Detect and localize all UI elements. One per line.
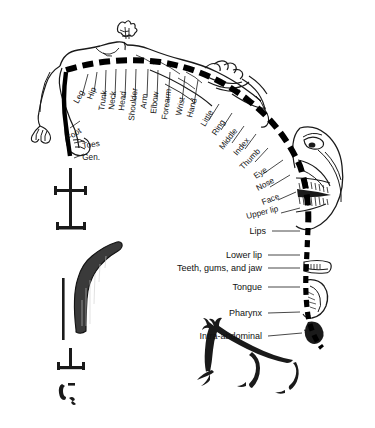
label-hip: Hip	[85, 86, 98, 101]
label-toes: Toes	[82, 139, 100, 150]
leader-line-intra-abdominal	[268, 333, 302, 336]
label-hand: Hand	[185, 97, 199, 119]
horizontal-label-group: LipsLower lipTeeth, gums, and jawTongueP…	[177, 226, 302, 341]
left-inset-figures	[54, 168, 122, 405]
label-lips: Lips	[249, 226, 266, 236]
label-gen: Gen.	[82, 153, 100, 162]
label-pharynx: Pharynx	[229, 308, 263, 318]
label-teeth-gums-and-jaw: Teeth, gums, and jaw	[177, 263, 263, 273]
leader-line-face	[278, 192, 296, 200]
label-leg: Leg	[72, 88, 87, 105]
homunculus-diagram: LegHipTrunkNeckHeadShoulderArmElbowForea…	[0, 0, 375, 428]
label-little: Little	[199, 108, 216, 128]
label-upper-lip: Upper lip	[245, 204, 279, 221]
intra-abdominal-structure	[197, 318, 299, 394]
leader-line-pharynx	[268, 312, 300, 313]
leader-line-arm	[147, 69, 148, 97]
label-arm: Arm	[139, 93, 150, 109]
label-shoulder: Shoulder	[127, 87, 139, 121]
label-elbow: Elbow	[149, 91, 160, 114]
label-face: Face	[260, 192, 281, 207]
homunculus-face	[293, 127, 343, 344]
label-head: Head	[117, 90, 128, 111]
label-tongue: Tongue	[232, 282, 262, 292]
label-forearm: Forearm	[160, 88, 173, 120]
label-intra-abdominal: Intra-abdominal	[199, 331, 262, 341]
label-ring: Ring	[210, 118, 227, 137]
label-lower-lip: Lower lip	[226, 250, 262, 260]
